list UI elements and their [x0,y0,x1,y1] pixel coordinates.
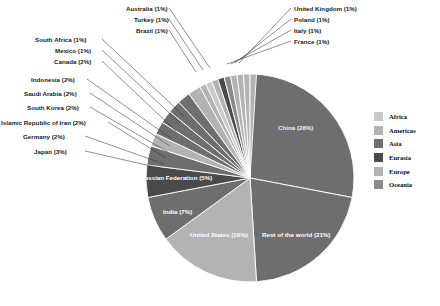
callout-label-safrica: South Africa (1%) [35,36,87,43]
slice-label-russia: Russian Federation (5%) [140,174,212,181]
chart-legend: AfricaAmericasAsiaEurasiaEuropeOceania [374,110,440,192]
callout-label-mexico: Mexico (1%) [55,47,91,54]
leader-line-turkey [169,19,203,70]
callout-label-turkey: Turkey (1%) [134,16,169,23]
leader-line-safrica [102,39,184,116]
leader-line-saudi [90,93,170,146]
callout-label-canada: Canada (2%) [54,58,91,65]
leader-line-brazil [169,30,196,72]
leader-line-poland [235,19,291,63]
legend-label-oceania: Oceania [389,181,412,188]
legend-label-asia: Asia [389,140,401,147]
pie-chart-figure: China (28%)Rest of the world (21%)United… [0,0,440,306]
leader-line-mexico [102,50,180,123]
legend-item-asia[interactable]: Asia [374,137,440,151]
callout-label-australia: Australia (1%) [126,5,168,12]
legend-swatch-africa [374,112,383,121]
slice-label-usa: United States (16%) [190,231,248,238]
legend-item-americas[interactable]: Americas [374,124,440,138]
legend-swatch-americas [374,126,383,135]
callout-label-korea: South Korea (2%) [27,104,79,111]
legend-swatch-asia [374,139,383,148]
callout-label-italy: Italy (1%) [294,27,321,34]
callout-label-saudi: Saudi Arabia (2%) [24,90,77,97]
legend-item-africa[interactable]: Africa [374,110,440,124]
callout-label-brazil: Brazil (1%) [136,27,168,34]
legend-swatch-eurasia [374,153,383,162]
leader-line-italy [231,30,291,64]
callout-label-indonesia: Indonesia (2%) [31,76,75,83]
callout-label-japan: Japan (3%) [34,148,67,155]
slice-label-india: India (7%) [163,208,192,215]
callout-label-iran: Islamic Republic of Iran (2%) [1,119,86,126]
leader-line-australia [169,8,210,68]
legend-label-americas: Americas [389,127,416,134]
legend-item-oceania[interactable]: Oceania [374,178,440,192]
pie-slice-china[interactable] [250,74,354,197]
legend-swatch-europe [374,167,383,176]
legend-label-eurasia: Eurasia [389,154,411,161]
legend-swatch-oceania [374,180,383,189]
legend-label-europe: Europe [389,168,410,175]
callout-label-poland: Poland (1%) [294,16,330,23]
leader-line-korea [90,107,168,152]
callout-label-uk: United Kingdom (1%) [294,5,357,12]
callout-label-germany: Germany (2%) [23,133,65,140]
slice-label-row: Rest of the world (21%) [262,231,330,238]
legend-item-eurasia[interactable]: Eurasia [374,151,440,165]
callout-label-france: France (1%) [294,38,329,45]
legend-label-africa: Africa [389,113,407,120]
legend-item-europe[interactable]: Europe [374,164,440,178]
slice-label-china: China (28%) [278,124,313,131]
